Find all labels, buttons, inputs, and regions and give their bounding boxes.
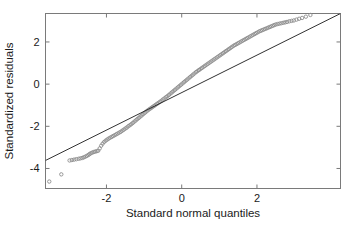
y-tick-label: 2: [33, 36, 39, 48]
x-tick-label: -2: [102, 192, 112, 204]
x-tick-label: 2: [254, 192, 260, 204]
y-tick-label: -4: [30, 162, 40, 174]
y-tick-label: 0: [33, 78, 39, 90]
x-tick-label: 0: [179, 192, 185, 204]
qq-plot-svg: -202-4-202Standard normal quantilesStand…: [0, 0, 358, 229]
qq-plot-figure: -202-4-202Standard normal quantilesStand…: [0, 0, 358, 229]
x-axis-title: Standard normal quantiles: [126, 207, 260, 219]
y-tick-label: -2: [30, 120, 40, 132]
y-axis-title: Standardized residuals: [3, 42, 15, 159]
